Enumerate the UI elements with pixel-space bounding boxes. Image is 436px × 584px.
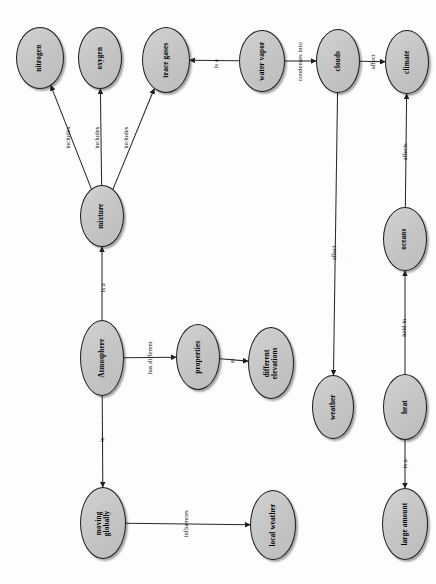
node-weather[interactable]: weather — [312, 375, 354, 439]
edge-layer — [0, 0, 436, 584]
node-label-clouds: clouds — [334, 51, 342, 71]
node-heat[interactable]: heat — [383, 374, 427, 440]
node-label-nitrogen: nitrogen — [36, 44, 44, 71]
node-label-different_elevations: different elevations — [263, 341, 280, 385]
edge-label-e8: affects — [400, 143, 408, 160]
edge-label-e13: at — [227, 358, 235, 363]
node-label-oceans: oceans — [401, 228, 409, 249]
node-label-water_vapor: water vapor — [258, 42, 266, 81]
node-label-properties: properties — [194, 341, 202, 374]
node-label-local_weather: local weather — [269, 503, 277, 547]
node-nitrogen[interactable]: nitrogen — [16, 27, 64, 89]
node-different_elevations[interactable]: different elevations — [248, 327, 294, 399]
edge-label-e14: is — [98, 438, 106, 442]
node-moving_globally[interactable]: moving globally — [80, 487, 126, 559]
edge-label-e6: affect — [368, 54, 376, 69]
node-local_weather[interactable]: local weather — [250, 490, 296, 560]
edge-label-e1: includes — [64, 127, 72, 149]
edge-label-e4: is a — [211, 59, 219, 68]
edge-mixture-to-trace_gases — [113, 89, 154, 189]
edge-label-e11: is a — [98, 283, 106, 292]
node-label-large_amount: large amount — [401, 502, 409, 546]
node-water_vapor[interactable]: water vapor — [239, 30, 285, 92]
edge-label-e12: has different — [145, 341, 153, 374]
node-label-oxygen: oxygen — [96, 47, 104, 70]
node-label-weather: weather — [329, 394, 337, 420]
node-oceans[interactable]: oceans — [383, 207, 427, 271]
edge-label-e7: affect — [329, 245, 337, 260]
node-large_amount[interactable]: large amount — [382, 488, 428, 560]
node-label-moving_globally: moving globally — [95, 501, 112, 545]
node-trace_gases[interactable]: trace gases — [142, 27, 190, 93]
node-label-mixture: mixture — [98, 203, 106, 228]
edge-label-e10: is a — [400, 459, 408, 468]
node-label-trace_gases: trace gases — [162, 43, 170, 78]
node-mixture[interactable]: mixture — [80, 185, 124, 247]
node-label-heat: heat — [401, 400, 409, 414]
node-label-atmosphere: Atmosphere — [98, 339, 106, 378]
concept-map-canvas: nitrogenoxygentrace gaseswater vaporclou… — [0, 0, 436, 584]
edge-label-e5: condenses into — [296, 39, 304, 85]
node-properties[interactable]: properties — [176, 324, 220, 390]
edge-label-e3: includes — [122, 127, 130, 149]
node-oxygen[interactable]: oxygen — [78, 27, 122, 89]
node-label-climate: climate — [403, 50, 411, 73]
node-climate[interactable]: climate — [385, 30, 429, 94]
edge-label-e15: influences — [181, 510, 189, 537]
node-clouds[interactable]: clouds — [316, 29, 360, 93]
edge-label-e9: held in — [400, 319, 408, 337]
node-atmosphere[interactable]: Atmosphere — [80, 320, 124, 396]
edge-clouds-to-weather — [333, 93, 337, 375]
edge-label-e2: includes — [93, 127, 101, 149]
